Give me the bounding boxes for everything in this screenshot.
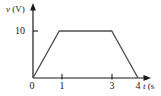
x-tick-label-0: 0 xyxy=(26,81,38,91)
voltage-time-graph-figure: v (V) t (s 10 0 1 3 4 xyxy=(0,0,161,96)
y-axis-label-variable: v xyxy=(6,4,10,14)
y-axis xyxy=(30,3,36,78)
x-tick-label-3: 3 xyxy=(106,81,118,91)
x-axis-label: t (s xyxy=(143,82,154,91)
x-tick-label-1: 1 xyxy=(56,81,68,91)
x-axis-label-unit: (s xyxy=(148,81,155,91)
y-tick-label-10: 10 xyxy=(8,26,25,36)
x-tick-label-4: 4 xyxy=(132,81,144,91)
waveform-trace xyxy=(33,31,138,78)
y-axis-label: v (V) xyxy=(6,5,25,14)
y-axis-arrowhead xyxy=(30,3,36,11)
y-axis-label-unit: (V) xyxy=(12,4,25,14)
